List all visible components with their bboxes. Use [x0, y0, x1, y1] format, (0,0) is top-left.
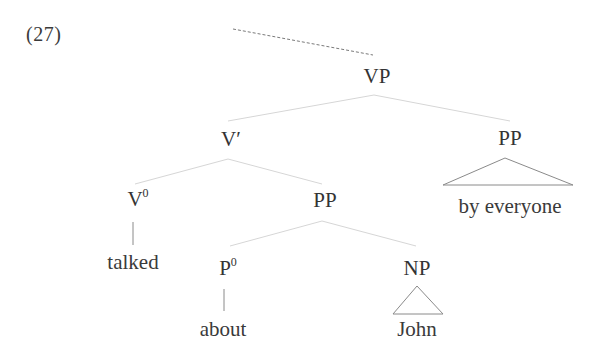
node-pp-upper: PP [498, 128, 521, 149]
leaf-john: John [397, 319, 437, 340]
node-v-bar: V′ [221, 129, 241, 150]
edge-vbar-v0 [135, 159, 228, 184]
node-pp-upper-label: PP [498, 126, 521, 150]
node-p0: P0 [219, 258, 237, 279]
edge-pp-np [322, 221, 416, 246]
node-p0-superscript: 0 [231, 255, 237, 269]
node-v-bar-label: V [221, 127, 236, 151]
triangle-np-john [393, 286, 443, 314]
edge-vp-pp [374, 95, 510, 121]
tree-edges [0, 0, 603, 354]
dotted-edge [233, 29, 373, 55]
prime-mark: ′ [236, 127, 241, 151]
leaf-by-everyone: by everyone [458, 196, 561, 217]
edge-vbar-pp [228, 159, 322, 184]
node-np-label: NP [404, 256, 431, 280]
edge-vp-vbar [228, 95, 374, 121]
node-v0-label: V [127, 187, 142, 211]
node-pp-lower-label: PP [313, 188, 336, 212]
leaf-talked: talked [107, 252, 158, 273]
node-v0-superscript: 0 [143, 186, 149, 200]
triangle-pp-by-everyone [443, 158, 573, 185]
node-vp-label: VP [364, 64, 391, 88]
edge-pp-p0 [230, 221, 322, 246]
node-p0-label: P [219, 256, 231, 280]
leaf-about: about [200, 319, 247, 340]
node-vp: VP [364, 66, 391, 87]
node-v0: V0 [127, 189, 148, 210]
node-np: NP [404, 258, 431, 279]
node-pp-lower: PP [313, 190, 336, 211]
